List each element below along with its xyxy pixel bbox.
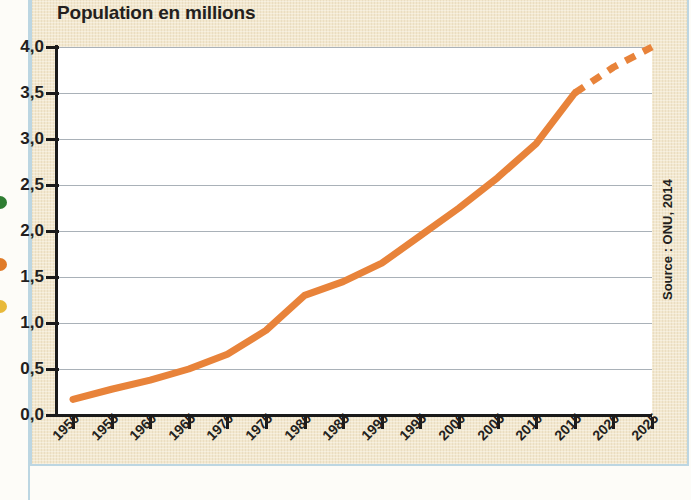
gridline bbox=[57, 231, 652, 232]
gridline bbox=[57, 323, 652, 324]
y-axis-tick-label: 2,0 bbox=[4, 221, 44, 241]
gridline bbox=[57, 93, 652, 94]
chart-title: Population en millions bbox=[57, 2, 255, 24]
y-axis-tick-label: 3,5 bbox=[4, 83, 44, 103]
y-axis-tick-label: 0,0 bbox=[4, 405, 44, 425]
y-axis-tick-label: 1,5 bbox=[4, 267, 44, 287]
gridline bbox=[57, 139, 652, 140]
gridline bbox=[57, 185, 652, 186]
y-axis-tick-label: 4,0 bbox=[4, 37, 44, 57]
y-axis-tick-label: 0,5 bbox=[4, 359, 44, 379]
y-axis-line bbox=[55, 45, 58, 417]
source-note: Source : ONU, 2014 bbox=[660, 179, 675, 300]
gridline bbox=[57, 369, 652, 370]
y-axis-tick-label: 2,5 bbox=[4, 175, 44, 195]
y-axis-tick-label: 1,0 bbox=[4, 313, 44, 333]
figure-root: Population en millions 0,00,51,01,52,02,… bbox=[0, 0, 691, 500]
y-axis-tick-label: 3,0 bbox=[4, 129, 44, 149]
x-axis-line bbox=[55, 414, 652, 417]
gridline bbox=[57, 47, 652, 48]
y-axis-labels: 0,00,51,01,52,02,53,03,54,0 bbox=[0, 0, 44, 500]
gridline bbox=[57, 277, 652, 278]
